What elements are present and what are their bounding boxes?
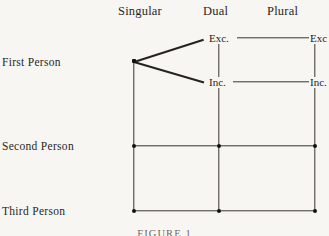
column-header-singular: Singular bbox=[118, 5, 162, 18]
edge-dual-exclusive-to-dual-inclusive bbox=[218, 40, 219, 78]
node-second-person-plural bbox=[313, 144, 317, 148]
node-third-person-plural bbox=[313, 209, 317, 213]
node-first-person-singular bbox=[132, 59, 136, 63]
edge-dual-inclusive-to-2du bbox=[218, 86, 219, 146]
row-label-first-person: First Person bbox=[2, 57, 61, 69]
edge-dual-inclusive-to-plural-inclusive bbox=[233, 81, 310, 82]
edge-2sg-to-2du bbox=[134, 145, 219, 146]
edge-2pl-to-3pl bbox=[314, 146, 315, 211]
edge-3sg-to-3du bbox=[134, 210, 219, 211]
edge-2sg-to-3sg bbox=[133, 146, 134, 211]
row-label-third-person: Third Person bbox=[2, 206, 65, 218]
node-second-person-dual bbox=[217, 144, 221, 148]
row-label-second-person: Second Person bbox=[2, 141, 74, 153]
edge-1sg-to-2sg bbox=[133, 61, 134, 146]
column-header-plural: Plural bbox=[267, 5, 298, 18]
column-header-dual: Dual bbox=[203, 5, 228, 18]
edge-2du-to-3du bbox=[218, 146, 219, 211]
edge-2du-to-2pl bbox=[219, 145, 315, 146]
figure-caption: FIGURE 1 bbox=[0, 228, 329, 236]
node-third-person-dual bbox=[217, 209, 221, 213]
edge-3du-to-3pl bbox=[219, 210, 315, 211]
node-second-person-singular bbox=[132, 144, 136, 148]
edge-plural-exclusive-to-plural-inclusive bbox=[314, 40, 315, 78]
edge-1sg-to-1du-inclusive bbox=[134, 61, 204, 83]
node-label-dual-exclusive: Exc. bbox=[208, 33, 230, 44]
node-label-plural-exclusive: Exc bbox=[309, 33, 328, 44]
node-label-plural-inclusive: Inc. bbox=[309, 77, 328, 88]
edge-dual-exclusive-to-plural-exclusive bbox=[237, 37, 309, 38]
edge-plural-inclusive-to-2pl bbox=[314, 86, 315, 146]
person-number-diagram: Singular Dual Plural First Person Second… bbox=[0, 0, 329, 236]
node-third-person-singular bbox=[132, 209, 136, 213]
edge-1sg-to-1du-exclusive bbox=[134, 39, 204, 63]
node-label-dual-inclusive: Inc. bbox=[208, 77, 227, 88]
